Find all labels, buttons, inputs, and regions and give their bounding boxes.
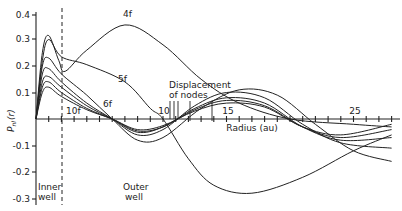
label-4f: 4f: [123, 9, 133, 19]
svg-text:Pnl(r): Pnl(r): [6, 109, 17, 132]
x-tick-25: 25: [349, 106, 360, 116]
y-tick-neg-0.2: -0.2: [12, 167, 30, 177]
x-tick-10: 10: [158, 106, 170, 116]
y-tick-0.1: 0.1: [16, 88, 30, 98]
label-6f: 6f: [103, 99, 113, 109]
y-tick-0.3: 0.3: [16, 34, 30, 44]
x-axis: [36, 116, 400, 122]
curves: [36, 25, 392, 194]
label-5f: 5f: [118, 74, 128, 84]
y-tick-0.4: 0.4: [16, 10, 31, 20]
displacement-label-2: of nodes: [169, 90, 208, 100]
y-tick-0.2: 0.2: [16, 61, 30, 71]
x-axis-label: Radius (au): [226, 123, 277, 133]
y-axis-label: Pnl(r): [6, 109, 17, 132]
displacement-label-1: Displacement: [169, 80, 231, 90]
label-10f: 10f: [66, 106, 81, 116]
x-tick-15: 15: [222, 106, 233, 116]
y-tick-neg-0.1: -0.1: [12, 141, 30, 151]
curve-10f: [36, 87, 392, 135]
y-tick-neg-0.3: -0.3: [12, 194, 30, 204]
inner-well-label-2: well: [38, 192, 56, 202]
outer-well-label-2: well: [125, 192, 143, 202]
curve-4f: [36, 25, 392, 127]
outer-well-label-1: Outer: [123, 182, 149, 192]
inner-well-label-1: Inner: [38, 182, 62, 192]
y-axis: [32, 12, 36, 205]
radial-wavefunction-chart: 0.4 0.3 0.2 0.1 -0.1 -0.2 -0.3 Pnl(r) 10…: [0, 0, 402, 211]
